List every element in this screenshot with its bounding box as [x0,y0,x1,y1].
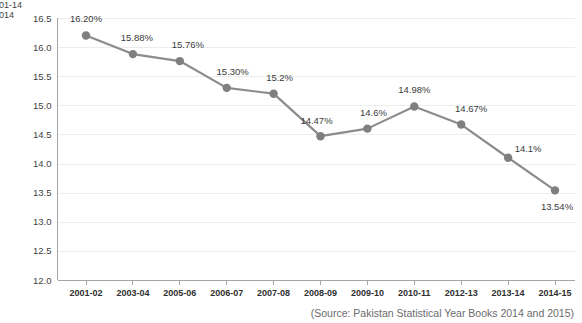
x-axis-tick-label: 2012-13 [445,288,478,298]
data-point-marker [176,57,184,65]
data-point-marker [82,31,90,39]
data-point-label: 13.54% [541,201,574,212]
y-axis-tick-label: 12.5 [33,245,52,256]
y-axis-tick-label: 16.0 [33,42,52,53]
x-axis-tick-label: 2013-14 [492,288,525,298]
legend-title-row: 01-14 [0,0,52,10]
x-axis-tick-label: 2009-10 [351,288,384,298]
legend-title: 01-14 [0,0,22,10]
y-axis-tick-label: 12.0 [33,275,52,286]
legend-series-label: 014 [0,10,14,20]
data-point-marker [551,186,559,194]
chart-legend: 01-14 014 [0,0,52,20]
data-point-marker [457,120,465,128]
x-axis-tick-label: 2008-09 [304,288,337,298]
y-axis-tick-label: 15.5 [33,71,52,82]
data-point-marker [410,102,418,110]
data-point-label: 15.30% [217,66,250,77]
data-point-label: 14.6% [360,107,387,118]
data-point-marker [316,132,324,140]
y-axis-tick-label: 15.0 [33,100,52,111]
chart-container: 01-14 014 12.012.513.013.514.014.515.015… [0,0,582,323]
x-axis-tick-label: 2014-15 [538,288,571,298]
x-axis-tick-label: 2005-06 [163,288,196,298]
x-axis-tick-label: 2010-11 [398,288,431,298]
data-point-label: 14.47% [300,115,333,126]
data-point-label: 16.20% [70,13,103,24]
source-note: (Source: Pakistan Statistical Year Books… [311,307,574,319]
x-axis-tick-label: 2001-02 [69,288,102,298]
data-point-label: 15.76% [172,39,205,50]
data-point-marker [504,154,512,162]
y-axis-tick-label: 14.0 [33,158,52,169]
data-point-label: 15.2% [266,72,293,83]
x-axis-tick-label: 2007-08 [257,288,290,298]
y-axis-tick-label: 14.5 [33,129,52,140]
y-axis-tick-label: 13.0 [33,216,52,227]
data-point-label: 14.67% [455,103,488,114]
data-point-label: 15.88% [121,32,154,43]
line-chart-plot: 12.012.513.013.514.014.515.015.516.016.5… [0,0,582,323]
data-point-marker [223,84,231,92]
data-point-marker [129,50,137,58]
x-axis-tick-label: 2006-07 [210,288,243,298]
y-axis-tick-label: 13.5 [33,187,52,198]
legend-series-row: 014 [0,10,52,20]
x-axis-tick-label: 2003-04 [116,288,149,298]
data-point-label: 14.1% [515,143,542,154]
data-point-label: 14.98% [398,84,431,95]
data-point-marker [269,89,277,97]
data-point-marker [363,124,371,132]
